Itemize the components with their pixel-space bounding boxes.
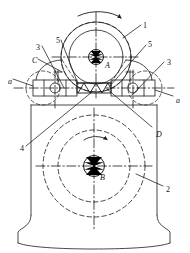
callout-label-5-left: 5 <box>56 37 60 45</box>
point-label-d: D <box>156 131 162 139</box>
rotation-arrow-middle <box>84 137 107 140</box>
callout-label-5-right: 5 <box>148 41 152 49</box>
callout-label-4: 4 <box>20 145 24 153</box>
figure-canvas: 1 2 3 3 4 5 5 A B C D a a <box>0 0 190 253</box>
point-label-b-lower: B <box>100 174 105 182</box>
section-line-right <box>106 70 174 108</box>
section-line-left <box>14 70 82 108</box>
callout-label-2: 2 <box>166 186 170 194</box>
callout-label-3-left: 3 <box>36 44 40 52</box>
rotation-arrow-top <box>78 12 121 18</box>
section-mark-a-left: a <box>8 78 12 86</box>
section-mark-a-right: a <box>176 97 180 105</box>
callout-label-3-right: 3 <box>167 59 171 67</box>
mechanical-diagram-svg <box>0 0 190 253</box>
point-label-a-upper: A <box>105 62 110 70</box>
callout-label-1: 1 <box>143 22 147 30</box>
connecting-arms <box>36 60 152 83</box>
point-label-c: C <box>32 57 37 65</box>
